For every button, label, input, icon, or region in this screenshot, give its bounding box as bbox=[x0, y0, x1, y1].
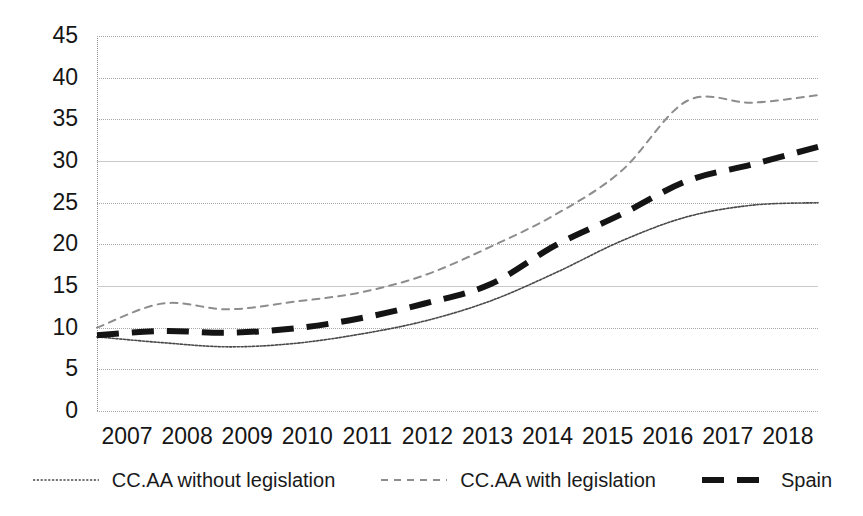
x-tick-label-2015: 2015 bbox=[578, 421, 638, 455]
x-tick-label-2013: 2013 bbox=[457, 421, 517, 455]
thick-dashed-swatch bbox=[700, 473, 770, 487]
x-tick-label-2014: 2014 bbox=[518, 421, 578, 455]
y-tick-label-35: 35 bbox=[32, 107, 78, 130]
y-tick-label-15: 15 bbox=[32, 274, 78, 297]
x-axis-labels: 2007200820092010201120122013201420152016… bbox=[97, 421, 818, 455]
chart-legend: CC.AA without legislationCC.AA with legi… bbox=[0, 458, 863, 502]
y-tick-label-0: 0 bbox=[32, 399, 78, 422]
x-tick-label-2010: 2010 bbox=[277, 421, 337, 455]
y-axis-labels: 454035302520151050 bbox=[20, 0, 78, 516]
plot-area bbox=[97, 36, 818, 411]
legend-item-cc-aa-without-legislation[interactable]: CC.AA without legislation bbox=[31, 469, 335, 491]
x-tick-label-2008: 2008 bbox=[157, 421, 217, 455]
gridline-0 bbox=[97, 411, 818, 412]
x-tick-label-2011: 2011 bbox=[337, 421, 397, 455]
legend-item-spain[interactable]: Spain bbox=[700, 469, 832, 491]
x-tick-label-2007: 2007 bbox=[97, 421, 157, 455]
legend-label: CC.AA without legislation bbox=[112, 469, 335, 491]
y-tick-label-20: 20 bbox=[32, 232, 78, 255]
legend-item-cc-aa-with-legislation[interactable]: CC.AA with legislation bbox=[379, 469, 656, 491]
fine-dotted-swatch bbox=[31, 473, 101, 487]
y-tick-label-5: 5 bbox=[32, 357, 78, 380]
x-tick-label-2009: 2009 bbox=[217, 421, 277, 455]
x-tick-label-2017: 2017 bbox=[698, 421, 758, 455]
series-line-cc-aa-without-legislation bbox=[97, 203, 818, 347]
legend-label: Spain bbox=[781, 469, 832, 491]
y-tick-label-10: 10 bbox=[32, 316, 78, 339]
x-tick-label-2016: 2016 bbox=[638, 421, 698, 455]
y-tick-label-30: 30 bbox=[32, 149, 78, 172]
y-tick-label-45: 45 bbox=[32, 24, 78, 47]
chart-container: 454035302520151050 200720082009201020112… bbox=[0, 0, 863, 516]
legend-label: CC.AA with legislation bbox=[460, 469, 656, 491]
x-tick-label-2012: 2012 bbox=[397, 421, 457, 455]
x-tick-label-2018: 2018 bbox=[758, 421, 818, 455]
y-tick-label-25: 25 bbox=[32, 191, 78, 214]
dashed-light-swatch bbox=[379, 473, 449, 487]
series-lines bbox=[97, 36, 818, 411]
series-line-spain bbox=[97, 147, 818, 335]
y-tick-label-40: 40 bbox=[32, 66, 78, 89]
